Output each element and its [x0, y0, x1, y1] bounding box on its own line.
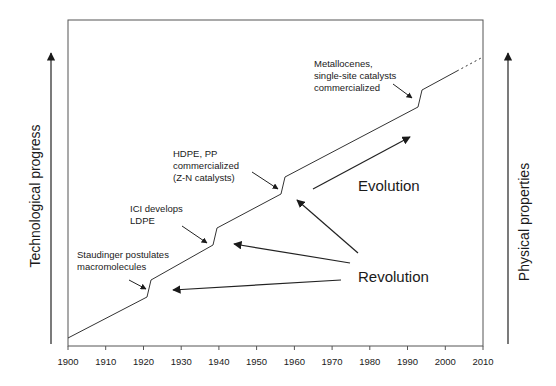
tick-label: 1970 — [322, 356, 343, 367]
pointer-arrow — [252, 172, 278, 189]
annotation-staudinger: Staudinger postulates macromolecules — [77, 249, 169, 289]
tick-label: 2010 — [472, 356, 493, 367]
tick-label: 1990 — [397, 356, 418, 367]
annotation-line: Staudinger postulates — [77, 249, 169, 260]
tick-label: 1930 — [171, 356, 192, 367]
x-axis-labels: 1900 1910 1920 1930 1940 1950 1960 1970 … — [57, 356, 493, 367]
progress-curve-extension — [457, 57, 483, 71]
tick-label: 2000 — [435, 356, 456, 367]
x-axis-ticks — [68, 346, 483, 350]
pointer-arrow — [129, 280, 146, 289]
annotation-line: LDPE — [130, 215, 155, 226]
progress-diagram: 1900 1910 1920 1930 1940 1950 1960 1970 … — [0, 0, 556, 386]
tick-label: 1900 — [57, 356, 78, 367]
left-axis-label: Technological progress — [27, 124, 43, 267]
revolution-arrow-1 — [297, 200, 358, 253]
tick-label: 1940 — [208, 356, 229, 367]
right-axis-label: Physical properties — [516, 163, 532, 281]
tick-label: 1950 — [246, 356, 267, 367]
pointer-arrow — [182, 226, 207, 243]
tick-label: 1920 — [133, 356, 154, 367]
annotation-line: (Z-N catalysts) — [173, 172, 235, 183]
annotation-line: Metallocenes, — [314, 58, 373, 69]
annotation-hdpe: HDPE, PP commercialized (Z-N catalysts) — [173, 148, 278, 189]
progress-curve — [68, 71, 457, 338]
tick-label: 1960 — [284, 356, 305, 367]
plot-frame — [68, 20, 483, 346]
annotation-line: HDPE, PP — [173, 148, 217, 159]
tick-label: 1910 — [95, 356, 116, 367]
annotation-line: single-site catalysts — [314, 70, 397, 81]
annotation-metallocenes: Metallocenes, single-site catalysts comm… — [314, 58, 412, 98]
revolution-label: Revolution — [358, 268, 429, 285]
annotation-line: macromolecules — [77, 261, 146, 272]
evolution-label: Evolution — [358, 177, 420, 194]
tick-label: 1980 — [359, 356, 380, 367]
revolution-arrow-3 — [173, 280, 341, 290]
revolution-arrow-2 — [234, 244, 350, 263]
pointer-arrow — [393, 84, 412, 98]
annotation-ici: ICI develops LDPE — [130, 203, 207, 243]
annotation-line: commercialized — [314, 82, 380, 93]
annotation-line: commercialized — [173, 160, 239, 171]
annotation-line: ICI develops — [130, 203, 183, 214]
